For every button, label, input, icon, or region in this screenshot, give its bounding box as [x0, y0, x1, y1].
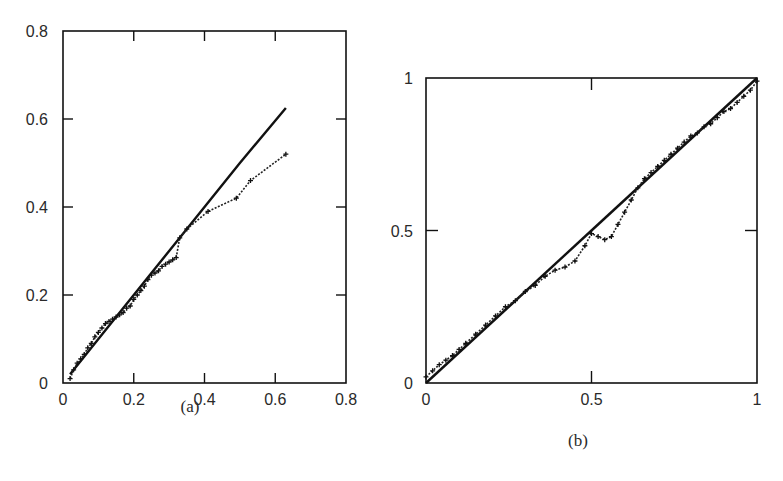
y-tick-label: 0.5: [391, 223, 413, 240]
reference-line: [426, 78, 757, 383]
x-tick-label: 0.8: [335, 391, 357, 408]
plus-marker: [424, 374, 429, 379]
plus-marker: [596, 234, 601, 239]
plus-marker: [602, 237, 607, 242]
tick-labels-a: 00.20.40.60.800.20.40.60.8: [26, 23, 357, 408]
x-tick-label: 0.6: [264, 391, 286, 408]
chart-panel-a: 00.20.40.60.800.20.40.60.8 (a): [26, 23, 357, 416]
empirical-trace: [70, 154, 286, 378]
x-tick-label: 0: [59, 391, 68, 408]
y-tick-label: 0: [39, 375, 48, 392]
y-tick-label: 0: [404, 375, 413, 392]
y-tick-label: 0.8: [26, 23, 48, 40]
caption-a: (a): [181, 397, 200, 416]
tick-labels-b: 00.5100.51: [391, 70, 762, 408]
y-tick-label: 0.2: [26, 287, 48, 304]
data-series-b: [424, 78, 760, 383]
data-series-a: [68, 108, 289, 381]
y-tick-label: 1: [404, 70, 413, 87]
x-tick-label: 0.2: [123, 391, 145, 408]
y-tick-label: 0.4: [26, 199, 48, 216]
reference-line: [70, 108, 286, 374]
plus-marker: [563, 265, 568, 270]
y-tick-label: 0.6: [26, 111, 48, 128]
x-tick-label: 0: [422, 391, 431, 408]
x-tick-label: 0.5: [580, 391, 602, 408]
plus-marker: [68, 376, 73, 381]
chart-panel-b: 00.5100.51 (b): [391, 70, 762, 450]
x-tick-label: 1: [753, 391, 762, 408]
caption-b: (b): [568, 431, 588, 450]
figure-canvas: 00.20.40.60.800.20.40.60.8 (a) 00.5100.5…: [0, 0, 783, 481]
